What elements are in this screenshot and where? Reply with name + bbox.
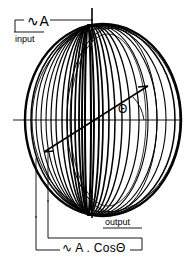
output-expression-bracket-right: [130, 238, 142, 250]
input-bracket-path: [15, 20, 24, 32]
output-caption-label: output: [105, 218, 130, 227]
diagonal-arrowhead-upper: [138, 86, 148, 87]
input-amplitude-label: ∿A: [27, 14, 49, 28]
output-expression-label: ∿ A . CosΘ: [62, 242, 126, 254]
diagram-canvas: ∿A input Θ output ∿ A . CosΘ: [0, 0, 194, 265]
input-caption-label: input: [15, 35, 35, 44]
angle-theta-label: Θ: [118, 103, 127, 115]
diagonal-analyzer-axis: [44, 86, 148, 152]
diagonal-arrowhead-lower: [44, 151, 54, 152]
